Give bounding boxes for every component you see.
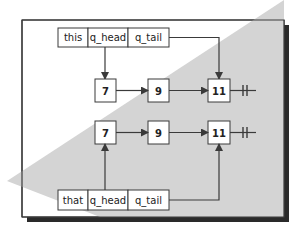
svg-text:11: 11 (212, 86, 226, 97)
svg-text:9: 9 (155, 86, 162, 97)
bottom-queue-header: that q_head q_tail (58, 190, 169, 210)
that-label: that (63, 195, 83, 206)
svg-text:7: 7 (102, 86, 109, 97)
top-queue-header: this q_head q_tail (58, 28, 169, 47)
this-label: this (64, 32, 82, 43)
top-q-tail-label: q_tail (135, 32, 162, 44)
svg-text:11: 11 (212, 128, 226, 139)
bottom-q-tail-label: q_tail (135, 195, 162, 207)
bottom-q-head-label: q_head (90, 195, 126, 207)
top-q-head-label: q_head (90, 32, 126, 44)
svg-text:7: 7 (102, 128, 109, 139)
svg-text:9: 9 (155, 128, 162, 139)
queue-copy-diagram: this q_head q_tail 7 9 11 7 9 11 (0, 0, 302, 233)
